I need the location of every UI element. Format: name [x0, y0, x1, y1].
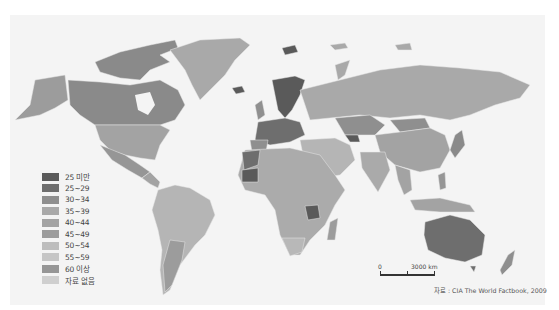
legend-label: 25 미만	[65, 171, 90, 182]
legend-swatch	[42, 219, 59, 227]
region-indonesia	[410, 198, 475, 212]
legend-label: 55~59	[65, 253, 89, 262]
region-india	[360, 152, 390, 192]
region-south-africa	[282, 238, 305, 256]
scale-bar: 0 3000 km	[378, 263, 438, 279]
legend-item: 25 미만	[42, 171, 94, 183]
region-tasmania	[470, 266, 476, 272]
region-arctic-islands-2	[395, 43, 412, 50]
region-usa	[95, 125, 170, 160]
legend-item: 40~44	[42, 217, 94, 229]
region-scandinavia	[272, 76, 305, 118]
region-canada-arctic	[95, 40, 178, 80]
region-philippines	[438, 172, 446, 190]
legend-label: 60 이상	[65, 263, 90, 274]
scale-end-label: 3000 km	[411, 263, 438, 270]
scale-tick	[407, 271, 408, 275]
legend-item: 55~59	[42, 252, 94, 264]
source-caption: 자료 : CIA The World Factbook, 2009	[434, 286, 547, 295]
legend-item: 50~54	[42, 240, 94, 252]
legend-item: 35~39	[42, 206, 94, 218]
region-mauritania	[242, 168, 258, 182]
legend-swatch	[42, 276, 59, 284]
scale-tick	[380, 271, 381, 275]
legend-label: 50~54	[65, 241, 89, 250]
legend-swatch	[42, 242, 59, 250]
region-se-asia	[395, 165, 412, 195]
legend-label: 25~29	[65, 184, 89, 193]
legend-item: 45~49	[42, 229, 94, 241]
legend-label: 30~34	[65, 195, 89, 204]
region-novaya-zemlya	[335, 60, 350, 80]
region-russia	[300, 65, 530, 120]
legend-swatch	[42, 173, 59, 181]
legend-swatch	[42, 265, 59, 273]
legend-swatch	[42, 230, 59, 238]
region-madagascar	[327, 218, 338, 240]
legend-label: 40~44	[65, 218, 89, 227]
legend-label: 자료 없음	[65, 275, 94, 286]
legend-label: 45~49	[65, 230, 89, 239]
legend-swatch	[42, 253, 59, 261]
region-canada	[68, 80, 185, 125]
region-australia	[424, 215, 485, 262]
region-svalbard	[282, 45, 298, 55]
scale-start-label: 0	[378, 263, 382, 270]
legend-item: 30~34	[42, 194, 94, 206]
region-new-zealand	[500, 250, 515, 275]
region-kazakhstan	[335, 115, 385, 135]
region-iceland	[232, 86, 245, 94]
legend-item: 자료 없음	[42, 275, 94, 287]
legend: 25 미만 25~29 30~34 35~39 40~44 45~49 50~5…	[42, 171, 94, 286]
legend-swatch	[42, 184, 59, 192]
legend-label: 35~39	[65, 207, 89, 216]
region-japan	[450, 130, 465, 158]
region-alaska	[15, 75, 68, 120]
region-south-america	[152, 185, 215, 295]
scale-tick	[434, 271, 435, 275]
legend-item: 60 이상	[42, 263, 94, 275]
legend-swatch	[42, 196, 59, 204]
region-arctic-islands	[330, 43, 348, 50]
legend-swatch	[42, 207, 59, 215]
legend-item: 25~29	[42, 183, 94, 195]
region-uzbekistan	[345, 135, 360, 142]
region-uk	[255, 100, 265, 120]
